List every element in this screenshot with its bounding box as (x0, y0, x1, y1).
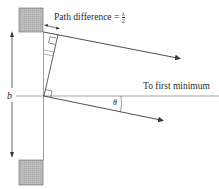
tick-mark-1 (44, 50, 55, 52)
path-difference-text: Path difference = (54, 12, 119, 22)
top-barrier-block (19, 8, 43, 32)
tick-mark-2 (44, 54, 54, 56)
theta-label: θ (113, 99, 117, 107)
path-difference-label: Path difference = λ 2 (54, 11, 125, 24)
slit-width-label: b (7, 91, 12, 101)
single-slit-diagram (0, 0, 219, 189)
top-ray (44, 32, 181, 59)
arrowhead-down-icon (10, 152, 14, 158)
fraction-denominator: 2 (122, 17, 125, 24)
arrowhead-up-icon (10, 31, 14, 37)
right-angle-mark-top (49, 37, 57, 45)
bottom-barrier-block (19, 160, 43, 185)
arrowhead-left-icon (44, 24, 48, 27)
arrowhead-right-icon (56, 26, 60, 29)
to-first-minimum-label: To first minimum (143, 82, 210, 92)
theta-angle-arc (121, 96, 122, 112)
lambda-symbol: λ (122, 11, 125, 17)
middle-ray (44, 96, 164, 121)
lambda-over-two: λ 2 (122, 11, 125, 24)
